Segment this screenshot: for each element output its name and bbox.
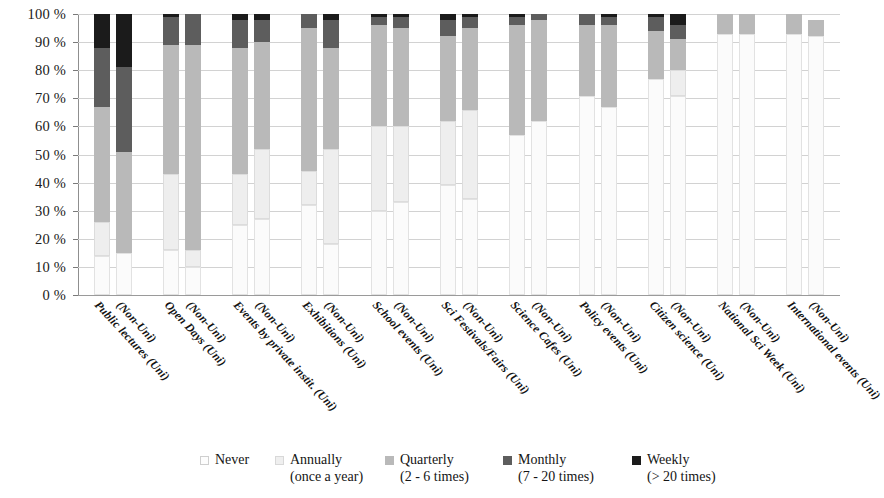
- bar-segment-monthly[interactable]: [670, 25, 686, 39]
- bar-segment-weekly[interactable]: [232, 14, 248, 20]
- bar-segment-quarterly[interactable]: [254, 42, 270, 149]
- bar-stack[interactable]: [786, 14, 802, 295]
- legend-item[interactable]: Quarterly(2 - 6 times): [385, 452, 469, 485]
- bar-segment-annually[interactable]: [323, 149, 339, 245]
- bar-segment-quarterly[interactable]: [116, 152, 132, 253]
- bar-segment-quarterly[interactable]: [579, 25, 595, 95]
- bar-segment-never[interactable]: [531, 121, 547, 295]
- bar-segment-quarterly[interactable]: [301, 28, 317, 171]
- bar-segment-never[interactable]: [717, 34, 733, 295]
- bar-segment-weekly[interactable]: [163, 14, 179, 17]
- bar-segment-weekly[interactable]: [462, 14, 478, 17]
- bar-segment-never[interactable]: [601, 107, 617, 295]
- bar-segment-weekly[interactable]: [509, 14, 525, 17]
- bar-segment-quarterly[interactable]: [739, 14, 755, 34]
- bar-segment-never[interactable]: [786, 34, 802, 295]
- bar-segment-annually[interactable]: [163, 174, 179, 250]
- bar-segment-weekly[interactable]: [601, 14, 617, 17]
- bar-segment-quarterly[interactable]: [531, 20, 547, 121]
- bar-segment-weekly[interactable]: [648, 14, 664, 17]
- bar-segment-quarterly[interactable]: [648, 31, 664, 79]
- bar-segment-monthly[interactable]: [116, 67, 132, 151]
- bar-segment-quarterly[interactable]: [440, 36, 456, 120]
- bar-stack[interactable]: [531, 14, 547, 295]
- bar-segment-quarterly[interactable]: [163, 45, 179, 174]
- bar-segment-monthly[interactable]: [323, 20, 339, 48]
- bar-segment-quarterly[interactable]: [808, 20, 824, 37]
- bar-stack[interactable]: [440, 14, 456, 295]
- bar-segment-never[interactable]: [579, 96, 595, 296]
- bar-segment-weekly[interactable]: [371, 14, 387, 17]
- bar-segment-weekly[interactable]: [94, 14, 110, 48]
- bar-segment-weekly[interactable]: [393, 14, 409, 17]
- bar-segment-annually[interactable]: [301, 171, 317, 205]
- bar-segment-monthly[interactable]: [462, 17, 478, 28]
- bar-stack[interactable]: [254, 14, 270, 295]
- bar-stack[interactable]: [185, 14, 201, 295]
- bar-segment-quarterly[interactable]: [323, 48, 339, 149]
- bar-segment-annually[interactable]: [440, 121, 456, 186]
- bar-segment-never[interactable]: [648, 79, 664, 295]
- bar-segment-never[interactable]: [670, 96, 686, 296]
- bar-stack[interactable]: [739, 14, 755, 295]
- bar-segment-monthly[interactable]: [440, 20, 456, 37]
- bar-stack[interactable]: [323, 14, 339, 295]
- bar-segment-never[interactable]: [301, 205, 317, 295]
- bar-stack[interactable]: [462, 14, 478, 295]
- bar-segment-weekly[interactable]: [440, 14, 456, 20]
- bar-segment-annually[interactable]: [254, 149, 270, 219]
- bar-segment-monthly[interactable]: [648, 17, 664, 31]
- bar-segment-quarterly[interactable]: [786, 14, 802, 34]
- bar-segment-never[interactable]: [739, 34, 755, 295]
- bar-segment-annually[interactable]: [94, 222, 110, 256]
- bar-segment-monthly[interactable]: [254, 20, 270, 42]
- bar-stack[interactable]: [371, 14, 387, 295]
- bar-segment-annually[interactable]: [462, 110, 478, 200]
- bar-segment-monthly[interactable]: [94, 48, 110, 107]
- bar-segment-weekly[interactable]: [254, 14, 270, 20]
- bar-stack[interactable]: [670, 14, 686, 295]
- bar-segment-monthly[interactable]: [185, 14, 201, 45]
- bar-stack[interactable]: [717, 14, 733, 295]
- bar-segment-never[interactable]: [232, 225, 248, 295]
- bar-segment-never[interactable]: [808, 36, 824, 295]
- bar-stack[interactable]: [393, 14, 409, 295]
- bar-segment-monthly[interactable]: [232, 20, 248, 48]
- bar-segment-annually[interactable]: [393, 126, 409, 202]
- bar-segment-never[interactable]: [116, 253, 132, 295]
- bar-segment-weekly[interactable]: [323, 14, 339, 20]
- bar-segment-never[interactable]: [440, 185, 456, 295]
- bar-segment-annually[interactable]: [232, 174, 248, 225]
- bar-stack[interactable]: [116, 14, 132, 295]
- bar-stack[interactable]: [94, 14, 110, 295]
- bar-segment-quarterly[interactable]: [371, 25, 387, 126]
- bar-segment-annually[interactable]: [185, 250, 201, 267]
- bar-segment-never[interactable]: [163, 250, 179, 295]
- bar-stack[interactable]: [579, 14, 595, 295]
- bar-stack[interactable]: [232, 14, 248, 295]
- bar-segment-monthly[interactable]: [371, 17, 387, 25]
- legend-item[interactable]: Monthly(7 - 20 times): [503, 452, 594, 485]
- bar-segment-never[interactable]: [254, 219, 270, 295]
- legend-item[interactable]: Weekly(> 20 times): [632, 452, 716, 485]
- bar-segment-never[interactable]: [371, 211, 387, 295]
- bar-stack[interactable]: [601, 14, 617, 295]
- bar-segment-quarterly[interactable]: [717, 14, 733, 34]
- bar-segment-never[interactable]: [462, 199, 478, 295]
- bar-segment-monthly[interactable]: [579, 14, 595, 25]
- bar-segment-monthly[interactable]: [393, 17, 409, 28]
- bar-segment-monthly[interactable]: [509, 17, 525, 25]
- bar-stack[interactable]: [509, 14, 525, 295]
- bar-segment-quarterly[interactable]: [670, 39, 686, 70]
- bar-segment-monthly[interactable]: [301, 14, 317, 28]
- bar-segment-never[interactable]: [509, 135, 525, 295]
- bar-segment-monthly[interactable]: [531, 14, 547, 20]
- bar-segment-quarterly[interactable]: [185, 45, 201, 250]
- bar-segment-never[interactable]: [393, 202, 409, 295]
- bar-segment-quarterly[interactable]: [94, 107, 110, 222]
- bar-segment-monthly[interactable]: [601, 17, 617, 25]
- bar-segment-quarterly[interactable]: [509, 25, 525, 135]
- bar-segment-never[interactable]: [94, 256, 110, 295]
- legend-item[interactable]: Never: [200, 452, 249, 468]
- bar-segment-never[interactable]: [185, 267, 201, 295]
